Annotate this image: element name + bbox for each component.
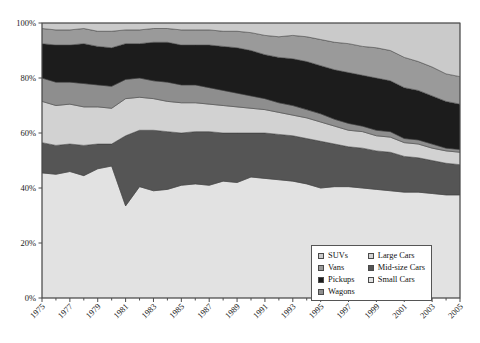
legend-column-1: SUVsVansPickupsWagons (318, 250, 355, 297)
chart-legend: SUVsVansPickupsWagonsLarge CarsMid-size … (311, 245, 432, 301)
legend-item-small-cars[interactable]: Small Cars (368, 274, 425, 285)
legend-label: Wagons (328, 286, 355, 297)
x-axis-tick-label: 1991 (251, 301, 270, 320)
legend-label: SUVs (328, 250, 348, 261)
legend-item-vans[interactable]: Vans (318, 262, 355, 273)
x-axis-tick-label: 1997 (334, 301, 353, 320)
legend-swatch-vans (318, 265, 324, 271)
x-axis-tick-label: 1999 (362, 301, 381, 320)
y-axis-tick-label: 20% (20, 238, 36, 248)
y-axis-tick-label: 0% (25, 293, 36, 303)
x-axis-tick-label: 2005 (446, 301, 465, 320)
y-axis-tick-label: 60% (20, 128, 36, 138)
x-axis-tick-label: 1993 (279, 301, 298, 320)
legend-label: Small Cars (378, 274, 415, 285)
x-axis-tick-label: 1995 (306, 301, 325, 320)
x-axis-tick-label: 1989 (223, 301, 242, 320)
x-axis-tick-label: 2001 (390, 301, 409, 320)
x-axis-tick-label: 1975 (28, 301, 47, 320)
legend-swatch-suvs (318, 253, 324, 259)
legend-swatch-pickups (318, 277, 324, 283)
legend-item-suvs[interactable]: SUVs (318, 250, 355, 261)
stacked-area-chart: 0%20%40%60%80%100%1975197719791981198319… (0, 0, 480, 343)
legend-swatch-mid-size-cars (368, 265, 374, 271)
y-axis-tick-label: 40% (20, 183, 36, 193)
x-axis-tick-label: 2003 (418, 301, 437, 320)
legend-item-wagons[interactable]: Wagons (318, 286, 355, 297)
legend-label: Large Cars (378, 250, 415, 261)
legend-label: Vans (328, 262, 344, 273)
y-axis-tick-label: 100% (16, 18, 36, 28)
x-axis-tick-label: 1981 (111, 301, 130, 320)
x-axis-tick-label: 1977 (56, 301, 75, 320)
x-axis-tick-label: 1985 (167, 301, 186, 320)
y-axis-tick-label: 80% (20, 73, 36, 83)
legend-swatch-wagons (318, 289, 324, 295)
legend-label: Mid-size Cars (378, 262, 425, 273)
legend-label: Pickups (328, 274, 355, 285)
legend-item-mid-size-cars[interactable]: Mid-size Cars (368, 262, 425, 273)
x-axis-tick-label: 1979 (84, 301, 103, 320)
x-axis-tick-label: 1983 (139, 301, 158, 320)
x-axis-tick-label: 1987 (195, 301, 214, 320)
legend-item-pickups[interactable]: Pickups (318, 274, 355, 285)
legend-column-2: Large CarsMid-size CarsSmall Cars (368, 250, 425, 297)
legend-swatch-large-cars (368, 253, 374, 259)
legend-item-large-cars[interactable]: Large Cars (368, 250, 425, 261)
legend-swatch-small-cars (368, 277, 374, 283)
